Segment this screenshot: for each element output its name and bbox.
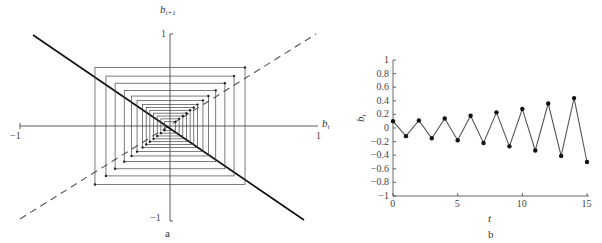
data-point-marker [404,134,408,138]
y-tick-label: −0.2 [371,137,389,147]
cobweb-arrow-point [156,135,158,137]
cobweb-arrow-point [114,168,116,170]
panel-a-caption: a [165,228,170,239]
data-point-marker [494,110,498,114]
solid-reaction-line [33,35,304,220]
data-point-marker [546,101,550,105]
y-tick-label: 0.2 [377,109,390,119]
y-tick-label: 0.8 [377,69,390,79]
y-tick-label: 0.4 [377,96,390,106]
y-tick-label: −1 [378,191,389,201]
cobweb-arrow-point [207,95,209,97]
y-tick-label: −0.8 [371,177,389,187]
cobweb-arrow-point [94,183,96,185]
series-line [393,98,587,162]
panel-a-x-tick-min: −1 [10,131,21,141]
y-tick-label: −0.6 [371,164,389,174]
x-tick-label: 10 [517,199,527,209]
cobweb-arrow-point [215,89,217,91]
data-point-marker [468,114,472,118]
panel-b-y-axis-label: bt [355,115,368,122]
cobweb-arrow-point [196,103,198,105]
y-tick-label: 0 [384,123,389,133]
panel-a-x-tick-max: 1 [316,131,321,141]
cobweb-arrow-point [189,109,191,111]
x-tick-label: 15 [581,199,591,209]
cobweb-arrow-point [193,106,195,108]
cobweb-arrow-point [149,140,151,142]
cobweb-arrow-point [160,132,162,134]
cobweb-arrow-point [152,138,154,140]
panel-a-y-tick-min: −1 [150,213,161,223]
cobweb-arrow-point [178,118,180,120]
panel-a-y-tick-max: 1 [161,29,166,39]
cobweb-arrow-point [182,115,184,117]
cobweb-arrow-point [244,66,246,68]
cobweb-arrow-point [224,82,226,84]
data-point-marker [417,118,421,122]
cobweb-arrow-point [185,112,187,114]
panel-b-x-axis-label: t [488,213,491,224]
x-tick-label: 5 [455,199,460,209]
y-tick-label: 0.6 [377,82,390,92]
data-point-marker [572,96,576,100]
cobweb-arrow-point [141,146,143,148]
cobweb-arrow-point [145,143,147,145]
panel-a-x-axis-label: bt [322,118,329,131]
data-point-marker [533,148,537,152]
cobweb-arrow-point [105,175,107,177]
data-point-marker [391,119,395,123]
panel-b-caption: b [488,229,494,240]
cobweb-arrow-point [202,99,204,101]
data-point-marker [443,116,447,120]
data-point-marker [430,136,434,140]
data-point-marker [585,160,589,164]
data-point-marker [559,154,563,158]
data-point-marker [507,144,511,148]
data-point-marker [481,141,485,145]
cobweb-arrow-point [233,75,235,77]
cobweb-arrow-point [130,155,132,157]
data-point-marker [455,138,459,142]
cobweb-arrow-point [136,150,138,152]
cobweb-arrow-point [163,129,165,131]
cobweb-arrow-point [123,160,125,162]
x-tick-label: 0 [390,199,395,209]
data-point-marker [520,107,524,111]
panel-a-y-axis-label: bt+1 [160,4,176,17]
y-tick-label: −0.4 [371,150,389,160]
y-tick-label: 1 [384,55,389,65]
cobweb-arrow-point [174,121,176,123]
